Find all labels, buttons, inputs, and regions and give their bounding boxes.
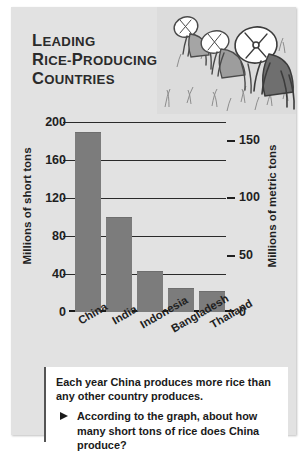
title-line-3: COUNTRIES	[32, 69, 182, 88]
ytick-label-160: 160	[45, 153, 66, 167]
question-callout: Each year China produces more rice than …	[44, 367, 288, 442]
callout-question-row: According to the graph, about how many s…	[56, 409, 282, 452]
tick-right-150	[227, 140, 235, 142]
ytick-label-80: 80	[52, 229, 66, 243]
ytick-right-label-150: 150	[239, 133, 260, 147]
gridline-200	[69, 122, 226, 123]
callout-question-text: According to the graph, about how many s…	[77, 409, 282, 452]
callout-lead-text: Each year China produces more rice than …	[56, 375, 282, 403]
triangle-right-icon	[60, 412, 68, 420]
ytick-label-40: 40	[52, 267, 66, 281]
title-line-2: RICE-PRODUCING	[32, 50, 182, 69]
bar-india[interactable]	[106, 217, 132, 312]
ytick-label-200: 200	[45, 115, 66, 129]
bar-chart: Millions of short tons Millions of metri…	[22, 112, 285, 317]
chart-card: LEADING RICE-PRODUCING COUNTRIES Million…	[11, 7, 296, 435]
page-title: LEADING RICE-PRODUCING COUNTRIES	[32, 31, 182, 88]
ytick-label-120: 120	[45, 191, 66, 205]
y-axis-title-left: Millions of short tons	[20, 146, 33, 266]
y-axis-title-right: Millions of metric tons	[265, 142, 278, 270]
plot-area: 200 160 120 80 40 0 150 100	[69, 122, 226, 312]
tick-right-100	[227, 197, 235, 199]
ytick-right-label-50: 50	[239, 248, 253, 262]
ytick-right-label-100: 100	[239, 190, 260, 204]
title-line-1: LEADING	[32, 31, 182, 50]
bar-indonesia[interactable]	[137, 271, 163, 312]
ytick-label-0: 0	[59, 305, 66, 319]
tick-right-50	[227, 255, 235, 257]
bar-china[interactable]	[75, 132, 101, 312]
